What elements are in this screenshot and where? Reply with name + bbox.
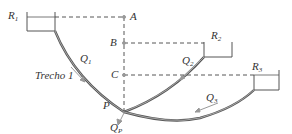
- label-r2: R2: [211, 30, 221, 43]
- label-r3: R3: [252, 61, 262, 74]
- label-point-c: C: [111, 69, 118, 80]
- label-point-b: B: [110, 37, 117, 48]
- reservoir-r2: [204, 42, 232, 57]
- label-q1: Q1: [80, 53, 91, 66]
- label-q2: Q2: [182, 55, 193, 68]
- diagram-canvas: [0, 0, 292, 134]
- label-r1: R1: [8, 10, 18, 23]
- pipes: [55, 31, 254, 120]
- label-section: Trecho 1: [35, 70, 73, 81]
- label-point-a: A: [130, 11, 137, 22]
- flow-arrows: [71, 16, 218, 126]
- label-point-p: P: [103, 100, 110, 111]
- label-qp: QP: [110, 122, 122, 134]
- label-q3: Q3: [206, 92, 217, 105]
- reservoir-r1: [27, 12, 55, 31]
